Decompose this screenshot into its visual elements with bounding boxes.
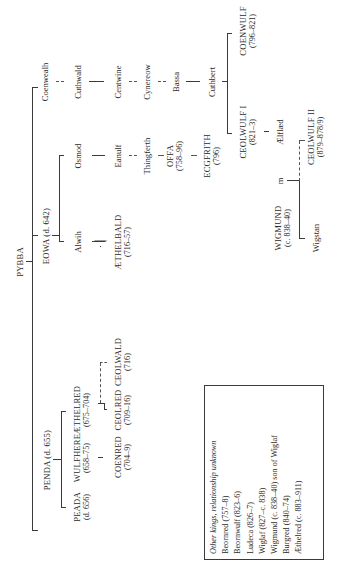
name: Thingferth (142, 138, 152, 175)
node-aelflaed: Ælflæd (275, 119, 285, 144)
connector (89, 81, 104, 82)
legend-title: Other kings, relationship unknown (208, 391, 220, 554)
connector (52, 235, 59, 236)
name: ÆTHELRED (72, 386, 82, 434)
connector (61, 412, 62, 508)
dates: (879–878/9) (316, 109, 326, 165)
connector (92, 241, 105, 242)
connector (59, 241, 64, 242)
legend-item: Burgred (840–74) (281, 391, 293, 554)
node-aethelred: ÆTHELRED (675–704) (72, 386, 92, 434)
uncertain-connector (129, 155, 137, 156)
name: CEOLWULF II (306, 109, 316, 165)
name: COENRED (113, 436, 123, 478)
connector (53, 459, 61, 460)
uncertain-connector (299, 140, 305, 141)
node-alwih: Alwih (73, 231, 83, 252)
connector (104, 409, 107, 410)
marriage-marker: m (275, 178, 285, 185)
node-thingferth: Thingferth (142, 138, 152, 175)
node-ecgfrith: ECGFRITH (796) (202, 134, 222, 178)
connector (61, 507, 66, 508)
node-wulfhere: WULFHERE (658–75) (72, 434, 92, 482)
dates: (c. 838–40) (283, 206, 293, 251)
node-bassa: Bassa (171, 72, 181, 92)
node-osmod: Osmod (73, 144, 83, 169)
name: Osmod (73, 144, 83, 169)
connector (264, 131, 269, 132)
legend-item: Ludeca (826–7) (245, 391, 257, 554)
node-penda: PENDA (d. 655) (42, 430, 52, 490)
name: Ælflæd (275, 119, 285, 144)
name: ÆTHELBALD (113, 215, 123, 270)
connector (287, 180, 299, 181)
dates: (675–704) (82, 386, 92, 434)
name: WIGMUND (273, 206, 283, 251)
legend-item: Wigmund (c. 838–40) son of Wiglaf (269, 391, 281, 554)
dates: (709–16) (123, 389, 133, 430)
node-aethelbald: ÆTHELBALD (716–57) (113, 215, 133, 270)
node-cuthbert: Cuthbert (207, 67, 217, 97)
connector (32, 87, 38, 88)
name: m (275, 178, 285, 185)
node-pybba: PYBBA (15, 247, 25, 277)
name: PENDA (d. 655) (42, 430, 52, 490)
connector (32, 530, 38, 531)
connector (100, 246, 101, 247)
uncertain-connector (100, 363, 101, 403)
node-wigstan: Wigstan (311, 224, 321, 252)
dates: (821–3) (248, 105, 258, 158)
name: EOWA (d. 642) (41, 208, 51, 264)
legend-item: Beornwulf (823–6) (232, 391, 244, 554)
legend-other-kings: Other kings, relationship unknown Beornr… (204, 385, 324, 560)
name: Wigstan (311, 224, 321, 252)
name: CEOLRED (113, 389, 123, 430)
name: CEOLWULF I (238, 105, 248, 158)
legend-item: Beornred (757–8) (220, 391, 232, 554)
connector (299, 181, 300, 239)
dates: (716) (123, 338, 133, 386)
connector (59, 155, 64, 156)
name: PYBBA (15, 247, 25, 277)
dates: (716–57) (123, 215, 133, 270)
name: Cuthbert (207, 67, 217, 97)
connector (186, 81, 200, 82)
connector (227, 33, 232, 34)
name: Bassa (171, 72, 181, 92)
dates: (796–821) (248, 6, 258, 55)
connector (32, 88, 33, 531)
dates: (758–96) (175, 141, 185, 171)
name: Cuthwald (73, 65, 83, 98)
uncertain-connector (158, 155, 164, 156)
name: Alwih (73, 231, 83, 252)
connector (61, 411, 66, 412)
uncertain-connector (100, 362, 107, 363)
dates: (796) (212, 134, 222, 178)
genealogy-tree: PYBBA PENDA (d. 655) PEADA (d. 656) WULF… (0, 0, 342, 567)
connector (92, 155, 105, 156)
name: COENWULF (238, 6, 248, 55)
node-ceolwulf-ii: CEOLWULF II (879–878/9) (306, 109, 326, 165)
connector (227, 34, 228, 134)
connector (299, 238, 305, 239)
node-coenwealh: Coenwealh (40, 63, 50, 102)
uncertain-connector (299, 141, 300, 181)
node-eowa: EOWA (d. 642) (41, 208, 51, 264)
node-offa: OFFA (758–96) (165, 141, 185, 171)
uncertain-connector (129, 81, 137, 82)
uncertain-connector (158, 81, 166, 82)
name: Eanulf (113, 145, 123, 168)
name: Coenwealh (40, 63, 50, 102)
node-centwine: Centwine (113, 66, 123, 99)
uncertain-connector (56, 81, 64, 82)
name: CEOLWALD (113, 338, 123, 386)
node-coenwulf: COENWULF (796–821) (238, 6, 258, 55)
node-cynereow: Cynereow (142, 64, 152, 99)
node-wigmund: WIGMUND (c. 838–40) (273, 206, 293, 251)
dates: (658–75) (82, 434, 92, 482)
uncertain-connector (191, 155, 197, 156)
node-eanulf: Eanulf (113, 145, 123, 168)
name: OFFA (165, 141, 175, 171)
name: Cynereow (142, 64, 152, 99)
legend-item: Æthelred (c. 883–911) (293, 391, 305, 554)
